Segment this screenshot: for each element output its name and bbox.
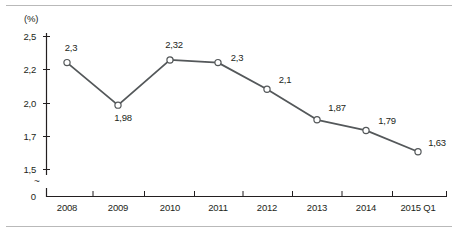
data-label-2: 2,32	[165, 39, 183, 50]
data-label-0: 2,3	[65, 42, 78, 53]
y-tick-label-4: 1,5	[8, 164, 36, 175]
x-tick-label-1: 2009	[108, 202, 128, 213]
data-point-1	[115, 102, 121, 108]
y-tick-label-0: 2,5	[8, 31, 36, 42]
data-label-7: 1,63	[428, 137, 446, 148]
data-point-3	[215, 60, 221, 66]
data-label-4: 2,1	[279, 74, 292, 85]
data-point-5	[314, 117, 320, 123]
data-point-6	[363, 127, 369, 133]
data-label-1: 1,98	[114, 112, 132, 123]
y-tick-label-1: 2,2	[8, 64, 36, 75]
data-label-6: 1,79	[378, 115, 396, 126]
x-tick-label-7: 2015 Q1	[400, 202, 435, 213]
x-tick-label-6: 2014	[356, 202, 376, 213]
chart-figure: (%) 2,52,22,01,71,5 ~ 0 2008200920102011…	[0, 0, 458, 236]
data-point-markers	[64, 57, 421, 155]
data-point-2	[167, 57, 173, 63]
x-tick-label-2: 2010	[160, 202, 180, 213]
x-tick-label-3: 2011	[208, 202, 228, 213]
y-tick-label-2: 2,0	[8, 98, 36, 109]
data-label-3: 2,3	[231, 52, 244, 63]
data-point-4	[264, 86, 270, 92]
x-tick-label-4: 2012	[257, 202, 277, 213]
data-label-5: 1,87	[328, 102, 346, 113]
data-point-7	[415, 149, 421, 155]
y-tick-label-3: 1,7	[8, 131, 36, 142]
data-point-0	[64, 60, 70, 66]
x-tick-label-0: 2008	[57, 202, 77, 213]
y-axis-origin-label: 0	[8, 191, 36, 202]
x-tick-label-5: 2013	[307, 202, 327, 213]
y-axis-break-symbol: ~	[28, 176, 46, 187]
plot-area: 2,52,22,01,71,5 ~ 0 20082009201020112012…	[0, 0, 458, 236]
